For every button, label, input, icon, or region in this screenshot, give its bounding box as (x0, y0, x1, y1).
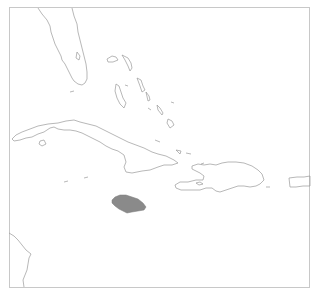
locator-map (0, 0, 317, 294)
